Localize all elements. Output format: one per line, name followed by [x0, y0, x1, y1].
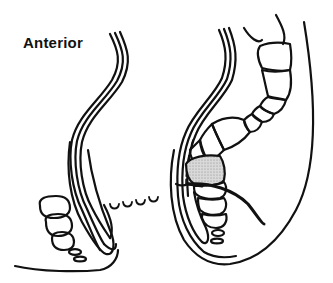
right-bowel-segments	[190, 15, 292, 164]
orientation-label-anterior: Anterior	[23, 34, 83, 51]
anatomical-illustration: Anterior	[0, 0, 333, 283]
scalloped-marks	[110, 197, 158, 209]
right-thick-tick	[188, 184, 202, 186]
shaded-mass	[186, 155, 225, 185]
